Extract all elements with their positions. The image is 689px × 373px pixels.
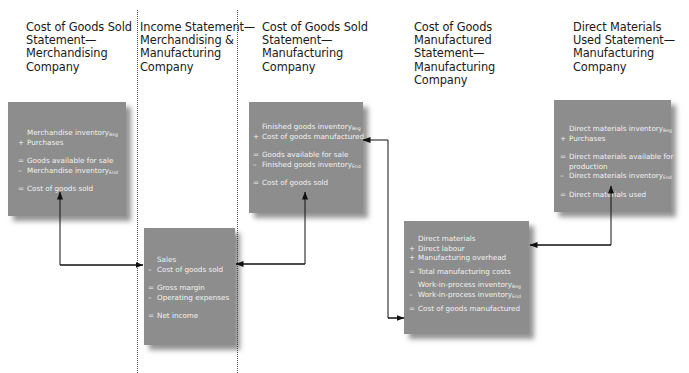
arrow-cogm-to-mfg-cogs bbox=[363, 140, 404, 318]
line-text: Cost of goods sold bbox=[262, 178, 361, 188]
line-label: Merchandise inventory bbox=[27, 128, 109, 137]
line-label: Manufacturing overhead bbox=[418, 253, 506, 262]
line-text: Finished goods inventoryEnd bbox=[262, 160, 361, 170]
line-label: Finished goods inventory bbox=[262, 122, 352, 131]
operator: = bbox=[253, 178, 262, 188]
operator: + bbox=[409, 253, 418, 263]
line-label: production bbox=[569, 162, 608, 171]
line-spacer bbox=[253, 169, 361, 178]
statement-line: +Purchases bbox=[18, 138, 122, 148]
line-subscript: Beg bbox=[663, 128, 672, 133]
statement-line: =Goods available for sale bbox=[253, 150, 361, 160]
line-label: Purchases bbox=[27, 138, 63, 147]
box-income-statement: Sales–Cost of goods sold=Gross margin–Op… bbox=[144, 228, 235, 345]
heading-line: Merchandising bbox=[26, 47, 132, 60]
operator: + bbox=[18, 138, 27, 148]
line-text: Purchases bbox=[27, 138, 122, 148]
operator bbox=[148, 255, 157, 265]
line-subscript: End bbox=[512, 294, 521, 299]
line-label: Direct materials available for bbox=[569, 152, 673, 161]
line-text: Purchases bbox=[569, 134, 669, 144]
operator: = bbox=[409, 304, 418, 314]
heading-line: Manufacturing bbox=[573, 47, 675, 60]
line-text: Direct labour bbox=[418, 244, 527, 254]
statement-line: production bbox=[560, 162, 669, 172]
line-label: Net income bbox=[157, 311, 198, 320]
operator: = bbox=[148, 283, 157, 293]
line-text: Cost of goods manufactured bbox=[418, 304, 527, 314]
statement-line: +Manufacturing overhead bbox=[409, 253, 527, 263]
line-label: Direct labour bbox=[418, 244, 465, 253]
line-text: Work-in-process inventoryBeg bbox=[418, 280, 527, 290]
line-label: Goods available for sale bbox=[262, 150, 348, 159]
line-text: Direct materials inventoryBeg bbox=[569, 124, 672, 134]
line-text: Cost of goods sold bbox=[27, 184, 122, 194]
line-text: Direct materials bbox=[418, 234, 527, 244]
line-spacer bbox=[18, 147, 122, 156]
line-label: Sales bbox=[157, 255, 176, 264]
operator: = bbox=[560, 190, 569, 200]
line-label: Operating expenses bbox=[157, 293, 229, 302]
statement-line: =Cost of goods sold bbox=[253, 178, 361, 188]
operator bbox=[253, 122, 262, 132]
line-label: Goods available for sale bbox=[27, 156, 113, 165]
line-label: Cost of goods manufactured bbox=[418, 304, 520, 313]
operator: – bbox=[18, 166, 27, 176]
line-spacer bbox=[253, 141, 361, 150]
line-label: Total manufacturing costs bbox=[418, 267, 511, 276]
operator bbox=[18, 128, 27, 138]
line-text: Goods available for sale bbox=[262, 150, 361, 160]
line-text: production bbox=[569, 162, 669, 172]
statement-line: Direct materials bbox=[409, 234, 527, 244]
column-divider-left bbox=[137, 10, 138, 373]
statement-line: =Net income bbox=[148, 311, 233, 321]
line-text: Merchandise inventoryEnd bbox=[27, 166, 122, 176]
line-subscript: Beg bbox=[109, 132, 118, 137]
line-subscript: End bbox=[663, 175, 672, 180]
line-text: Goods available for sale bbox=[27, 156, 122, 166]
line-label: Cost of goods manufactured bbox=[262, 132, 364, 141]
operator: – bbox=[253, 160, 262, 170]
line-label: Purchases bbox=[569, 134, 605, 143]
line-text: Merchandise inventoryBeg bbox=[27, 128, 122, 138]
heading-line: Company bbox=[262, 61, 368, 74]
line-label: Direct materials bbox=[418, 234, 476, 243]
statement-line: –Merchandise inventoryEnd bbox=[18, 166, 122, 176]
statement-line: +Purchases bbox=[560, 134, 669, 144]
line-subscript: Beg bbox=[512, 284, 521, 289]
statement-line: –Finished goods inventoryEnd bbox=[253, 160, 361, 170]
operator: – bbox=[148, 293, 157, 303]
statement-line: =Total manufacturing costs bbox=[409, 267, 527, 277]
line-text: Gross margin bbox=[157, 283, 233, 293]
operator: – bbox=[409, 290, 418, 300]
heading-line: Statement— bbox=[414, 47, 495, 60]
statement-line: =Gross margin bbox=[148, 283, 233, 293]
line-spacer bbox=[18, 175, 122, 184]
heading-line: Company bbox=[573, 61, 675, 74]
line-label: Gross margin bbox=[157, 283, 205, 292]
line-label: Work-in-process inventory bbox=[418, 280, 512, 289]
line-label: Work-in-process inventory bbox=[418, 290, 512, 299]
line-text: Direct materials available for bbox=[569, 152, 673, 162]
operator: = bbox=[148, 311, 157, 321]
heading-line: Company bbox=[414, 74, 495, 87]
heading-cogs-merchandising: Cost of Goods Sold Statement— Merchandis… bbox=[26, 21, 132, 74]
column-divider-right bbox=[237, 10, 238, 373]
line-label: Cost of goods sold bbox=[27, 184, 93, 193]
box-direct-materials-used: Direct materials inventoryBeg+Purchases=… bbox=[554, 100, 671, 212]
operator bbox=[409, 234, 418, 244]
statement-line: –Cost of goods sold bbox=[148, 265, 233, 275]
box-cogs-manufacturing: Finished goods inventoryBeg+Cost of good… bbox=[249, 102, 363, 213]
line-label: Merchandise inventory bbox=[27, 166, 109, 175]
operator: + bbox=[409, 244, 418, 254]
operator: = bbox=[560, 152, 569, 162]
statement-line: Direct materials inventoryBeg bbox=[560, 124, 669, 134]
line-text: Total manufacturing costs bbox=[418, 267, 527, 277]
line-subscript: End bbox=[352, 164, 361, 169]
line-spacer bbox=[560, 143, 669, 152]
operator: = bbox=[18, 156, 27, 166]
statement-line: –Direct materials inventoryEnd bbox=[560, 171, 669, 181]
operator: + bbox=[560, 134, 569, 144]
line-text: Cost of goods sold bbox=[157, 265, 233, 275]
line-spacer bbox=[148, 302, 233, 311]
